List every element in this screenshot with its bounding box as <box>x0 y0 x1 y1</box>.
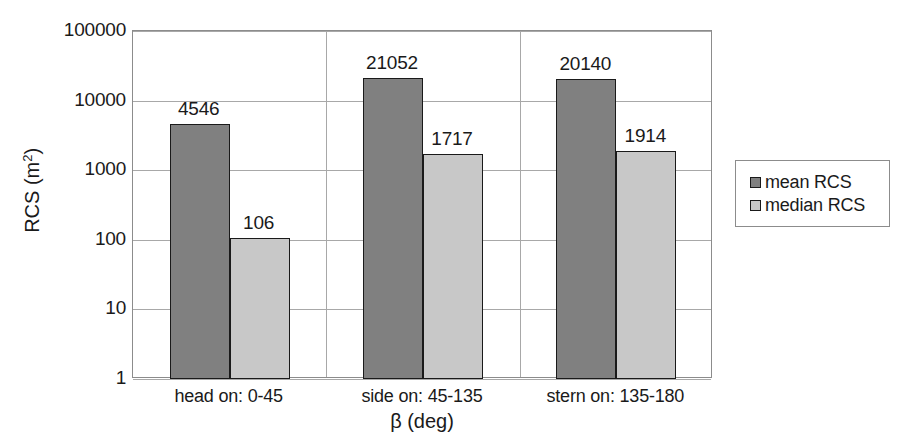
gridline-horizontal <box>133 31 711 32</box>
y-axis-title-close: ) <box>21 148 43 155</box>
bar-mean-rcs <box>556 79 616 379</box>
y-axis-tick-label: 10 <box>16 298 126 317</box>
bar-median-rcs <box>616 151 676 379</box>
gridline-horizontal <box>133 379 711 380</box>
bar-median-rcs <box>230 238 290 379</box>
y-axis-title-exponent: 2 <box>20 155 35 162</box>
legend-item: mean RCS <box>750 171 889 193</box>
bar-mean-rcs <box>363 78 423 379</box>
x-axis-tick-label: stern on: 135-180 <box>519 386 712 406</box>
bar-value-label: 4546 <box>149 99 249 118</box>
bar-value-label: 21052 <box>342 53 442 72</box>
legend-item: median RCS <box>750 194 889 216</box>
y-axis-tick-label: 100000 <box>16 20 126 39</box>
y-axis-title-base: RCS (m <box>21 162 43 233</box>
y-axis-tick-label: 1 <box>16 368 126 387</box>
x-axis-title: β (deg) <box>132 410 712 433</box>
legend-swatch-icon <box>750 200 761 211</box>
legend-item-label: mean RCS <box>765 173 851 191</box>
legend-swatch-icon <box>750 177 761 188</box>
gridline-vertical <box>520 31 521 377</box>
bar-value-label: 20140 <box>535 54 635 73</box>
bar-value-label: 1914 <box>595 126 695 145</box>
chart-legend: mean RCSmedian RCS <box>735 160 890 227</box>
bar-value-label: 106 <box>209 213 309 232</box>
rcs-bar-chart: 100000100001000100101 RCS (m2) 454610621… <box>0 0 920 446</box>
y-axis-title: RCS (m2) <box>20 95 45 285</box>
plot-area <box>132 30 712 378</box>
bar-mean-rcs <box>170 124 230 379</box>
bar-value-label: 1717 <box>402 129 502 148</box>
x-axis-tick-label: head on: 0-45 <box>132 386 325 406</box>
bar-median-rcs <box>423 154 483 379</box>
x-axis-tick-label: side on: 45-135 <box>325 386 518 406</box>
gridline-vertical <box>326 31 327 377</box>
legend-item-label: median RCS <box>765 196 865 214</box>
